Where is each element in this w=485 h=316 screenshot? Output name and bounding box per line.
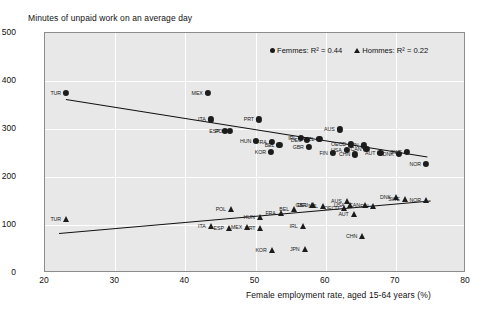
chart-title: Minutes of unpaid work on an average day	[28, 13, 192, 23]
data-point-kor	[269, 247, 275, 253]
point-label-pol: POL	[216, 206, 226, 212]
data-point-pol	[227, 128, 233, 134]
point-label-jpn: JPN	[290, 246, 300, 252]
triangle-marker-icon	[354, 48, 360, 53]
gridline-vertical	[185, 33, 186, 271]
data-point-dnk	[396, 151, 402, 157]
point-label-nzl: NZL	[305, 136, 315, 142]
x-tick-50: 50	[240, 275, 270, 285]
data-point-jpn	[302, 246, 308, 252]
data-point-chn	[352, 151, 358, 157]
point-label-nor: NOR	[410, 197, 421, 203]
data-point-aus	[337, 126, 343, 132]
point-label-fin: FIN	[360, 203, 368, 209]
point-label-ita: ITA	[198, 223, 206, 229]
legend-label-hommes: Hommes: R² = 0.22	[362, 46, 428, 55]
point-label-usa: USA	[334, 202, 345, 208]
point-label-pol: POL	[215, 128, 225, 134]
point-label-gbr: GBR	[295, 202, 306, 208]
point-label-fra: FRA	[265, 210, 275, 216]
y-tick-100: 100	[0, 219, 16, 229]
gridline-vertical	[115, 33, 116, 271]
point-label-fin: FIN	[319, 150, 327, 156]
point-label-chn: CHN	[339, 151, 350, 157]
point-label-chn: CHN	[346, 233, 357, 239]
legend-item-femmes: Femmes: R² = 0.44	[270, 46, 342, 55]
point-label-tur: TUR	[50, 216, 61, 222]
point-label-irl: IRL	[290, 223, 298, 229]
point-label-prt: PRT	[245, 225, 255, 231]
y-tick-300: 300	[0, 123, 16, 133]
point-label-dnk: DNK	[383, 151, 394, 157]
point-label-kor: KOR	[255, 149, 266, 155]
data-point-bel	[276, 142, 282, 148]
point-label-hun: HUN	[244, 214, 255, 220]
data-point-prt	[257, 225, 263, 231]
gridline-horizontal	[45, 81, 464, 82]
x-tick-30: 30	[99, 275, 129, 285]
data-point-pol	[228, 206, 234, 212]
data-point-hun	[257, 214, 263, 220]
data-point-irl	[300, 223, 306, 229]
data-point-mex	[205, 90, 211, 96]
data-point-tur	[63, 90, 69, 96]
data-point-nor	[423, 197, 429, 203]
circle-marker-icon	[270, 48, 275, 53]
data-point-fin	[370, 203, 376, 209]
data-point-nor	[423, 160, 429, 166]
chart-legend: Femmes: R² = 0.44 Hommes: R² = 0.22	[270, 46, 428, 55]
point-label-aus: AUS	[324, 126, 335, 132]
point-label-tur: TUR	[50, 90, 61, 96]
data-point-chn	[359, 233, 365, 239]
data-point-swe	[402, 196, 408, 202]
x-tick-80: 80	[450, 275, 480, 285]
point-label-bel: BEL	[279, 206, 289, 212]
point-label-nor: NOR	[410, 161, 421, 167]
point-label-kor: KOR	[255, 247, 266, 253]
y-tick-400: 400	[0, 75, 16, 85]
point-label-can: CAN	[349, 202, 360, 208]
x-tick-40: 40	[169, 275, 199, 285]
gridline-horizontal	[45, 177, 464, 178]
x-tick-60: 60	[310, 275, 340, 285]
point-label-mex: MEX	[192, 90, 203, 96]
point-label-ita: ITA	[198, 116, 206, 122]
point-label-swe: SWE	[388, 196, 400, 202]
y-tick-0: 0	[0, 267, 16, 277]
x-tick-70: 70	[380, 275, 410, 285]
point-label-prt: PRT	[244, 116, 254, 122]
data-point-tur	[63, 216, 69, 222]
point-label-bel: BEL	[265, 142, 275, 148]
data-point-prt	[256, 116, 262, 122]
data-point-aut	[351, 211, 357, 217]
y-tick-200: 200	[0, 171, 16, 181]
point-label-nzl: NZL	[308, 203, 318, 209]
point-label-esp: ESP	[214, 225, 224, 231]
point-label-gbr: GBR	[293, 144, 304, 150]
y-tick-500: 500	[0, 27, 16, 37]
point-label-aut: AUT	[365, 150, 375, 156]
point-label-aut: AUT	[338, 211, 348, 217]
x-tick-20: 20	[29, 275, 59, 285]
point-label-hun: HUN	[240, 138, 251, 144]
data-point-kor	[268, 148, 274, 154]
x-axis-title: Female employment rate, aged 15-64 years…	[246, 290, 431, 300]
legend-label-femmes: Femmes: R² = 0.44	[277, 46, 342, 55]
point-label-deu: DEU	[291, 137, 302, 143]
legend-item-hommes: Hommes: R² = 0.22	[354, 46, 428, 55]
point-label-mex: MEX	[231, 224, 242, 230]
data-point-gbr	[306, 144, 312, 150]
chart-root: Minutes of unpaid work on an average day…	[0, 0, 485, 316]
data-point-fin	[330, 150, 336, 156]
plot-area: TURMEXITAESPPOLPRTHUNFRABELKORIRLDEUNZLG…	[44, 32, 465, 272]
